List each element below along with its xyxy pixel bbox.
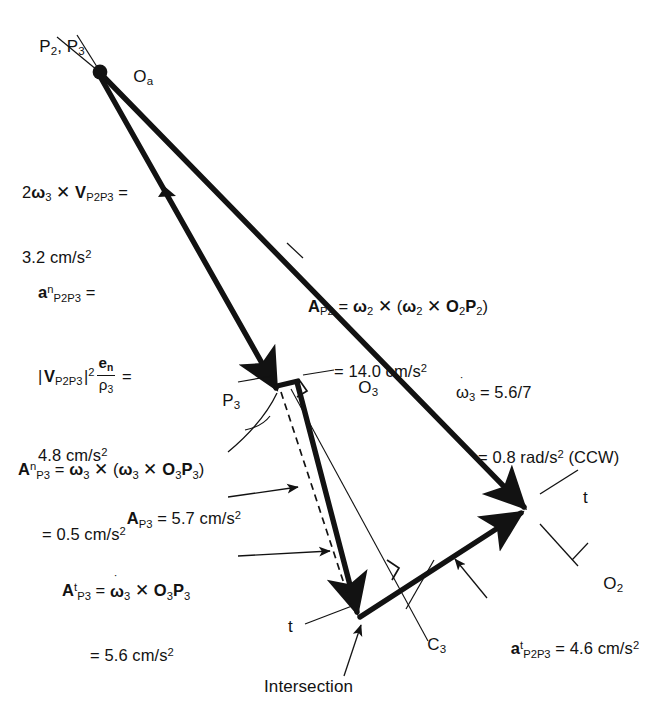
label-p3: P3 [203,368,240,435]
label-o3: O3 [339,355,378,422]
annotation-a-p3-tangential: AtP3 = ω˙3 ✕ O3P3 = 5.6 cm/s2 [62,538,190,709]
leader-a-p2 [287,243,303,258]
leader-t-bottom [305,606,352,624]
leader-a-p3-t [238,551,330,556]
line-c3 [291,389,428,641]
omega-dot-accent-2: ˙ [114,572,118,589]
acceleration-diagram: P2, P3 Oa 2ω3 ✕ VP2P3 = 3.2 cm/s2 anP2P3… [0,0,661,715]
label-o2: O2 [584,551,623,618]
label-t-bottom: t [288,616,293,638]
midline-arrowhead [157,180,176,197]
leader-intersection [344,625,361,676]
label-c3: C3 [408,612,446,679]
leader-a-p2p3-t [455,559,487,598]
label-t-right: t [583,487,588,509]
omega-dot-accent: ˙ [460,374,464,391]
label-intersection: Intersection [264,676,353,698]
label-origin-pole: Oa [114,44,153,111]
label-p2-p3: P2, P3 [20,14,85,81]
annotation-alpha3: ω ˙ 3 = 5.6/7 = 0.8 rad/s2 (CCW) [456,340,619,511]
vector-a-p2p3-t-leg [360,513,521,617]
annotation-a-p2p3-tangential: atP2P3 = 4.6 cm/s2 [492,617,639,682]
leader-p3 [238,376,272,382]
